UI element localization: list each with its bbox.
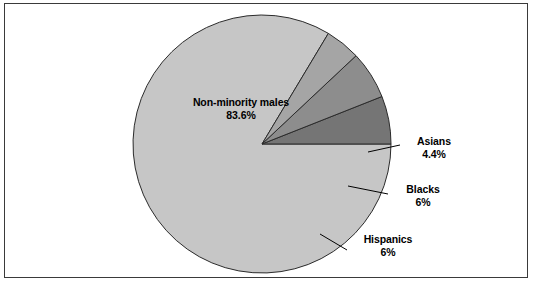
- pie-label-hispanics-value: 6%: [348, 246, 428, 259]
- pie-label-asians-name: Asians: [403, 135, 465, 148]
- pie-label-non-minority-males-value: 83.6%: [176, 109, 306, 122]
- pie-label-asians: Asians 4.4%: [403, 135, 465, 161]
- pie-label-blacks-value: 6%: [392, 196, 454, 209]
- pie-label-non-minority-males-name: Non-minority males: [176, 96, 306, 109]
- pie-label-non-minority-males: Non-minority males 83.6%: [176, 96, 306, 122]
- pie-chart-figure: Non-minority males 83.6% Asians 4.4% Bla…: [0, 0, 537, 287]
- pie-label-blacks-name: Blacks: [392, 183, 454, 196]
- pie-label-hispanics: Hispanics 6%: [348, 233, 428, 259]
- pie-label-asians-value: 4.4%: [403, 148, 465, 161]
- pie-label-hispanics-name: Hispanics: [348, 233, 428, 246]
- pie-label-blacks: Blacks 6%: [392, 183, 454, 209]
